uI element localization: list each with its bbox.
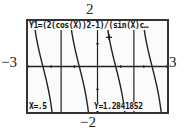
graph-plot bbox=[28, 21, 167, 112]
trace-x-value: X=.5 bbox=[29, 102, 47, 111]
ymax-label: 2 bbox=[86, 2, 94, 17]
xmax-label: 3 bbox=[169, 55, 177, 70]
calculator-graph-screen: Y1=(2(cos(X))2-1)/(sin(X)c… X=.5 Y=1.284… bbox=[26, 19, 169, 114]
xmin-label: −3 bbox=[1, 55, 17, 70]
trace-y-value: Y=1.2841852 bbox=[94, 102, 143, 111]
equation-text: Y1=(2(cos(X))2-1)/(sin(X)c… bbox=[29, 21, 148, 30]
ymin-label: −2 bbox=[80, 115, 96, 130]
